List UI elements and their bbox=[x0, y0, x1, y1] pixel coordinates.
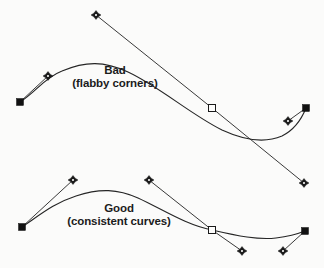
bezier-diagram-canvas bbox=[0, 0, 324, 268]
bad-anchor-start[interactable] bbox=[17, 99, 24, 106]
bad-anchor-end[interactable] bbox=[303, 105, 310, 112]
bad-handle-markers bbox=[43, 11, 309, 188]
bad-caption-title: Bad bbox=[60, 64, 170, 77]
bad-caption: Bad (flabby corners) bbox=[60, 64, 170, 90]
good-anchor-middle[interactable] bbox=[209, 227, 216, 234]
good-caption-subtitle: (consistent curves) bbox=[54, 215, 184, 228]
bad-example-group bbox=[17, 11, 310, 188]
good-anchor-end[interactable] bbox=[302, 228, 309, 235]
good-caption-title: Good bbox=[54, 202, 184, 215]
good-handle-marker-third[interactable] bbox=[237, 247, 247, 256]
bezier-comparison-figure: Bad (flabby corners) Good (consistent cu… bbox=[0, 0, 324, 268]
bad-anchor-points bbox=[17, 99, 310, 112]
good-caption: Good (consistent curves) bbox=[54, 202, 184, 228]
bad-caption-subtitle: (flabby corners) bbox=[60, 77, 170, 90]
good-anchor-start[interactable] bbox=[19, 224, 26, 231]
bad-anchor-middle[interactable] bbox=[209, 105, 216, 112]
bad-handle-line-left bbox=[20, 76, 48, 102]
bad-handle-marker-right[interactable] bbox=[283, 117, 293, 126]
bad-handle-line-top bbox=[96, 15, 212, 108]
bad-handle-lines bbox=[20, 15, 306, 183]
